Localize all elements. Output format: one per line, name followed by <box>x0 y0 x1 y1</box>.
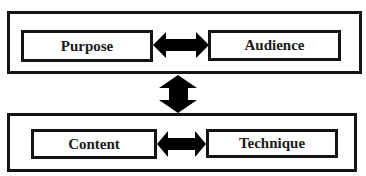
purpose-audience-double-arrow-icon <box>153 32 209 58</box>
connector-arrows <box>0 0 366 176</box>
content-technique-double-arrow-icon <box>157 131 206 157</box>
vertical-double-arrow-icon <box>159 75 197 113</box>
